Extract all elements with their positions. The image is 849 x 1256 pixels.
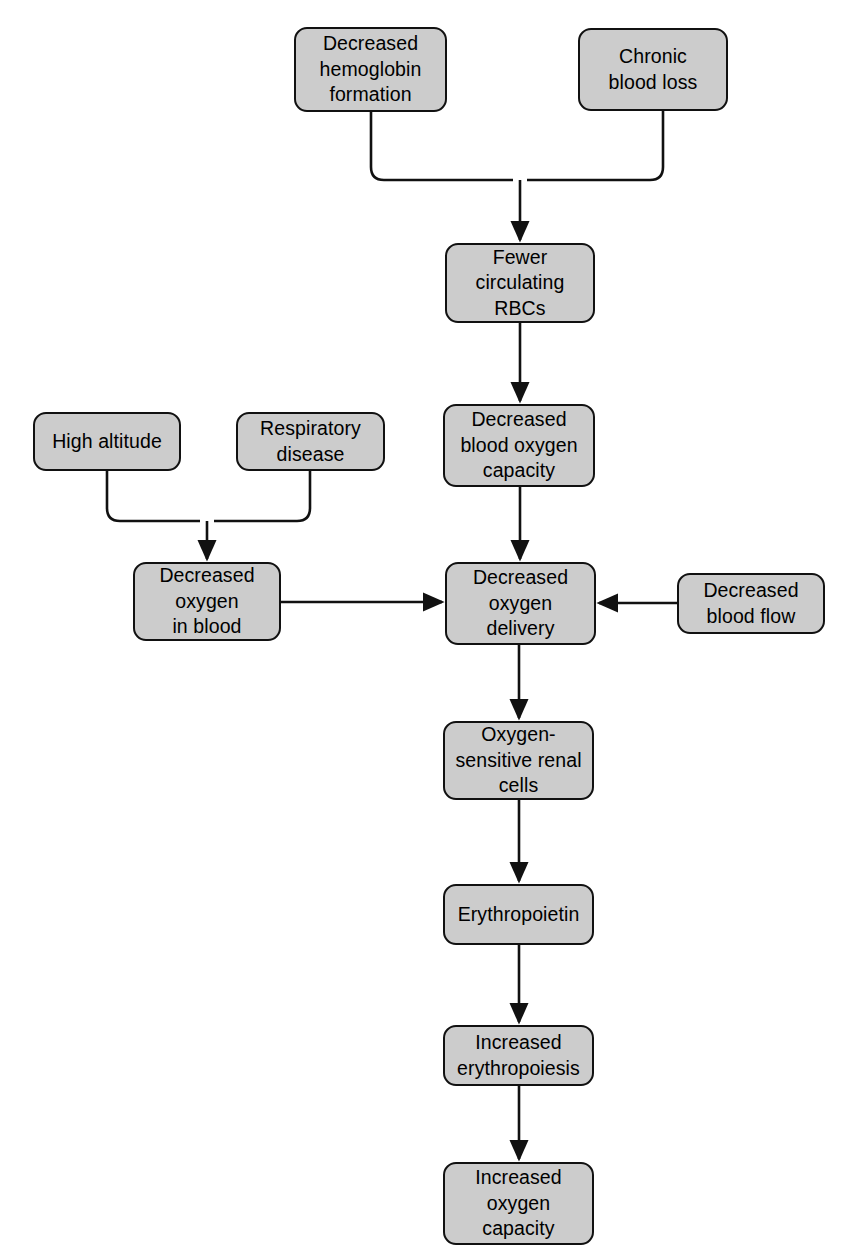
edge-altitude-to-junction <box>107 471 200 521</box>
node-respiratory-disease[interactable]: Respiratory disease <box>236 412 385 471</box>
node-decreased-blood-flow[interactable]: Decreased blood flow <box>677 573 825 634</box>
node-decreased-hemoglobin-formation[interactable]: Decreased hemoglobin formation <box>294 27 447 112</box>
node-increased-oxygen-capacity[interactable]: Increased oxygen capacity <box>443 1162 594 1245</box>
flowchart-canvas: Decreased hemoglobin formation Chronic b… <box>0 0 849 1256</box>
node-decreased-oxygen-delivery[interactable]: Decreased oxygen delivery <box>445 562 596 645</box>
node-erythropoietin[interactable]: Erythropoietin <box>443 884 594 945</box>
node-decreased-blood-oxygen-capacity[interactable]: Decreased blood oxygen capacity <box>443 404 595 487</box>
node-increased-erythropoiesis[interactable]: Increased erythropoiesis <box>443 1025 594 1086</box>
node-oxygen-sensitive-renal-cells[interactable]: Oxygen- sensitive renal cells <box>443 721 594 800</box>
edge-hemoglobin-to-junction <box>371 112 513 180</box>
node-decreased-oxygen-in-blood[interactable]: Decreased oxygen in blood <box>133 562 281 641</box>
node-chronic-blood-loss[interactable]: Chronic blood loss <box>578 28 728 111</box>
node-fewer-circulating-rbcs[interactable]: Fewer circulating RBCs <box>445 243 595 323</box>
edge-respiratory-to-junction <box>214 471 310 521</box>
edge-chronic-to-junction <box>527 111 663 180</box>
node-high-altitude[interactable]: High altitude <box>33 412 181 471</box>
